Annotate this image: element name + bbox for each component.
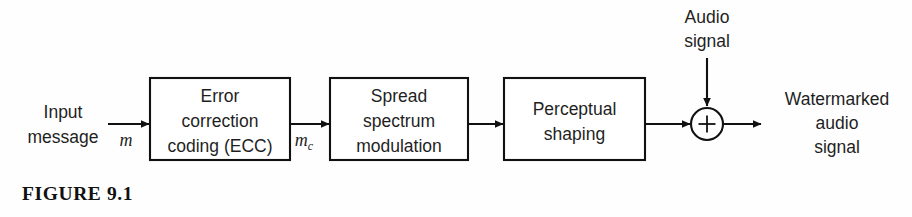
input-message-line-1: Input <box>44 102 83 122</box>
block-perceptual-line-2: shaping <box>544 124 605 144</box>
block-spread-line-1: Spread <box>371 86 427 106</box>
figure-caption: FIGURE 9.1 <box>22 183 133 205</box>
block-ecc-line-2: correction <box>182 111 259 131</box>
signal-label-m: m <box>120 130 133 150</box>
block-spread-line-2: spectrum <box>363 111 435 131</box>
output-label-line-1: Watermarked <box>785 89 889 109</box>
block-ecc-line-3: coding (ECC) <box>167 136 272 156</box>
block-spread-line-3: modulation <box>356 136 442 156</box>
diagram-canvas: Error correction coding (ECC) Spread spe… <box>0 0 912 217</box>
signal-label-mc-base: m <box>295 130 308 150</box>
signal-label-mc: mc <box>295 130 314 153</box>
output-label-line-2: audio <box>816 113 859 133</box>
block-perceptual-line-1: Perceptual <box>533 99 617 119</box>
figure-block-diagram: Error correction coding (ECC) Spread spe… <box>0 0 912 217</box>
input-audio-line-1: Audio <box>685 7 730 27</box>
signal-label-mc-subscript: c <box>308 139 314 153</box>
block-perceptual-shaping[interactable] <box>504 78 645 160</box>
output-label-line-3: signal <box>814 137 860 157</box>
input-message-line-2: message <box>27 127 98 147</box>
input-audio-line-2: signal <box>684 31 730 51</box>
block-ecc-line-1: Error <box>201 86 240 106</box>
